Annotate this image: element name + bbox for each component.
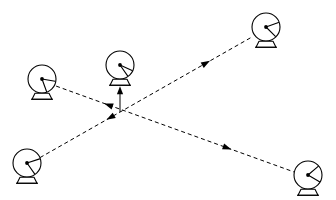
- dish-pedestal: [17, 177, 37, 183]
- link-arrow-head: [201, 61, 210, 68]
- dish-top-center[interactable]: [106, 51, 134, 85]
- diagram-canvas: [0, 0, 336, 200]
- dish-bottom-left[interactable]: [13, 149, 41, 183]
- dish-pedestal: [256, 41, 276, 47]
- link-line: [40, 36, 253, 157]
- link-bottom-left-to-top-right: [40, 36, 253, 157]
- link-arrow-head: [106, 113, 115, 120]
- link-arrow-head: [222, 143, 232, 149]
- feed-arrow-head: [117, 86, 123, 94]
- dish-pedestal: [298, 189, 318, 195]
- link-line: [56, 86, 294, 172]
- dish-bottom-right[interactable]: [294, 161, 322, 195]
- diagram-svg: [0, 0, 336, 200]
- dish-pedestal: [32, 93, 52, 99]
- link-arrow-head: [104, 103, 114, 109]
- dish-pedestal: [110, 79, 130, 85]
- dish-top-left[interactable]: [28, 65, 56, 99]
- link-top-left-to-bottom-right: [56, 86, 294, 172]
- dish-top-right[interactable]: [252, 13, 280, 47]
